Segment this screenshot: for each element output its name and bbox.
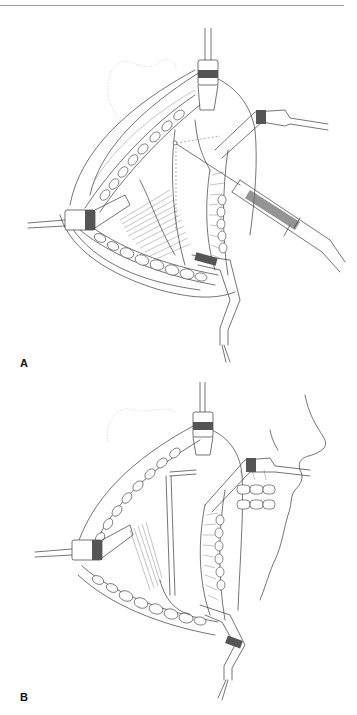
facial-profile-b	[260, 395, 326, 600]
figure-label-a: A	[20, 357, 28, 369]
exposed-rectangle-b	[160, 470, 196, 615]
retractor-bottom-a	[192, 252, 240, 362]
retractor-right-a	[215, 110, 328, 158]
retractor-top-a	[198, 28, 218, 110]
profile-teeth-b	[237, 470, 275, 509]
retractor-bottom-b	[200, 605, 245, 700]
lower-teeth-row-b	[91, 574, 207, 626]
syringe-instrument-a	[173, 141, 345, 272]
header-rule	[0, 5, 344, 6]
retractor-left-b	[35, 525, 133, 560]
figure-a-illustration	[0, 28, 357, 368]
retractor-top-b	[193, 382, 213, 455]
muscle-hatching-a	[120, 172, 224, 259]
figure-label-b: B	[20, 691, 28, 703]
surgical-illustration-b	[0, 382, 357, 702]
retractor-left-a	[28, 195, 130, 230]
right-teeth-row-a	[217, 195, 227, 253]
surgical-illustration-a	[0, 28, 357, 368]
figure-b-illustration	[0, 382, 357, 702]
upper-teeth-row-b	[93, 446, 182, 545]
